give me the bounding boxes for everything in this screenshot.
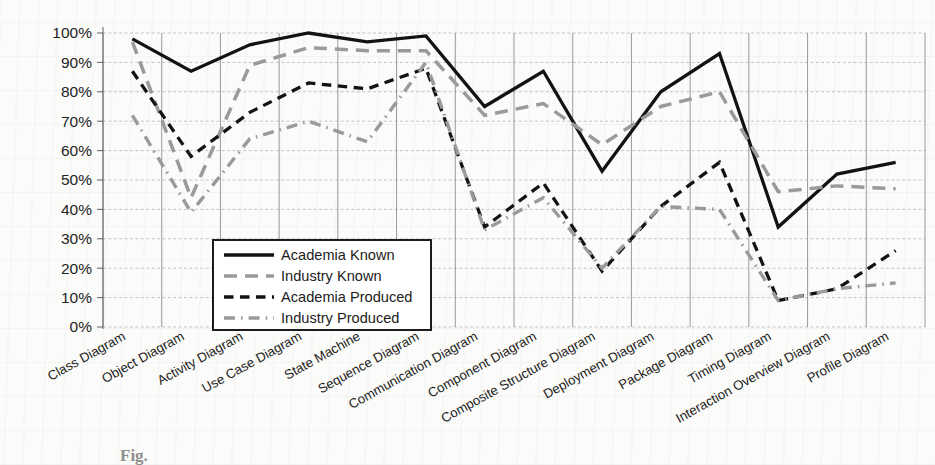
- y-axis: [97, 27, 103, 329]
- x-axis-category-labels: Class DiagramObject DiagramActivity Diag…: [45, 328, 891, 425]
- y-axis-tick-label: 80%: [61, 83, 92, 100]
- y-axis-tick-label: 0%: [70, 318, 93, 335]
- legend-label-industry-produced: Industry Produced: [281, 310, 399, 326]
- line-chart: 0%10%20%30%40%50%60%70%80%90%100% Class …: [0, 0, 935, 465]
- y-axis-tick-label: 50%: [61, 171, 92, 188]
- chart-figure: 0%10%20%30%40%50%60%70%80%90%100% Class …: [0, 0, 935, 465]
- legend-label-academia-known: Academia Known: [281, 247, 395, 263]
- y-axis-tick-label: 100%: [52, 24, 92, 41]
- figure-caption: Fig.: [120, 446, 148, 465]
- chart-legend: Academia KnownIndustry KnownAcademia Pro…: [213, 240, 431, 330]
- x-axis-label-deployment-diagram: Deployment Diagram: [541, 329, 657, 402]
- caption-text: Fig.: [120, 446, 148, 465]
- legend-label-industry-known: Industry Known: [281, 268, 382, 284]
- y-axis-tick-label: 90%: [61, 54, 92, 71]
- y-axis-tick-label: 30%: [61, 230, 92, 247]
- y-axis-tick-label: 10%: [61, 289, 92, 306]
- y-axis-tick-label: 20%: [61, 260, 92, 277]
- y-axis-tick-labels: 0%10%20%30%40%50%60%70%80%90%100%: [52, 24, 92, 335]
- x-axis-label-use-case-diagram: Use Case Diagram: [199, 329, 304, 396]
- y-axis-tick-label: 70%: [61, 113, 92, 130]
- y-axis-tick-label: 60%: [61, 142, 92, 159]
- legend-label-academia-produced: Academia Produced: [281, 289, 412, 305]
- y-axis-tick-label: 40%: [61, 201, 92, 218]
